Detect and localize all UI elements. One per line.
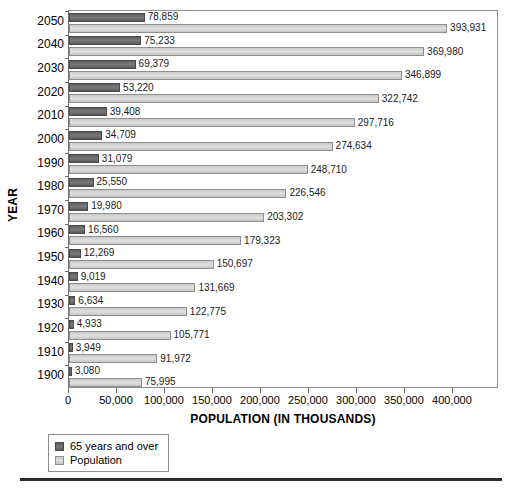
x-axis-tick-label: 150,000	[192, 394, 232, 406]
bar-group: 3,94991,972	[69, 342, 497, 366]
bottom-divider	[20, 478, 502, 481]
legend-item: 65 years and over	[55, 439, 158, 453]
x-axis-tick-label: 350,000	[384, 394, 424, 406]
y-axis-tick	[65, 318, 69, 319]
bar-value-population: 226,546	[289, 188, 325, 198]
y-axis-label-1920: 1920	[22, 322, 64, 334]
bar-group: 78,859393,931	[69, 11, 497, 35]
legend-swatch-light-icon	[55, 456, 64, 465]
bar-population	[69, 165, 308, 174]
bar-population	[69, 142, 333, 151]
bar-group: 6,634122,775	[69, 295, 497, 319]
bar-population	[69, 260, 214, 269]
x-axis-tick	[356, 388, 357, 393]
y-axis-tick	[65, 35, 69, 36]
x-axis-tick	[452, 388, 453, 393]
bar-value-population: 322,742	[382, 94, 418, 104]
y-axis-label-1990: 1990	[22, 157, 64, 169]
y-axis-label-1940: 1940	[22, 275, 64, 287]
bar-rows: 78,859393,93175,233369,98069,379346,8995…	[69, 11, 497, 387]
y-axis-tick	[65, 153, 69, 154]
bar-65-and-over	[69, 154, 99, 163]
bar-population	[69, 94, 379, 103]
bar-65-and-over	[69, 131, 102, 140]
y-axis-label-2010: 2010	[22, 109, 64, 121]
chart-legend: 65 years and overPopulation	[48, 434, 169, 472]
bar-value-population: 297,716	[358, 118, 394, 128]
x-axis-tick	[308, 388, 309, 393]
bar-65-and-over	[69, 249, 81, 258]
bar-group: 39,408297,716	[69, 106, 497, 130]
bar-value-population: 105,771	[174, 330, 210, 340]
bar-value-population: 274,634	[336, 141, 372, 151]
x-axis-tick-label: 0	[65, 394, 71, 406]
y-axis-tick	[65, 200, 69, 201]
y-axis-tick	[65, 106, 69, 107]
bar-value-65-and-over: 6,634	[78, 296, 103, 306]
y-axis-tick	[65, 11, 69, 12]
bar-value-65-and-over: 31,079	[102, 154, 133, 164]
bar-population	[69, 354, 157, 363]
bar-population	[69, 378, 142, 387]
y-axis-tick	[65, 82, 69, 83]
y-axis-label-2030: 2030	[22, 62, 64, 74]
bar-65-and-over	[69, 320, 74, 329]
y-axis-label-1960: 1960	[22, 227, 64, 239]
bar-population	[69, 118, 355, 127]
bar-value-65-and-over: 3,080	[75, 366, 100, 376]
bar-value-population: 203,302	[267, 212, 303, 222]
bar-value-65-and-over: 53,220	[123, 83, 154, 93]
bar-value-65-and-over: 39,408	[110, 107, 141, 117]
x-axis-tick	[68, 388, 69, 393]
bar-65-and-over	[69, 343, 73, 352]
bar-value-65-and-over: 12,269	[84, 248, 115, 258]
y-axis-label-2050: 2050	[22, 15, 64, 27]
bar-value-65-and-over: 19,980	[91, 201, 122, 211]
bar-65-and-over	[69, 225, 85, 234]
bar-65-and-over	[69, 107, 107, 116]
bar-group: 16,560179,323	[69, 224, 497, 248]
x-axis-tick-label: 50,000	[99, 394, 133, 406]
bar-65-and-over	[69, 36, 141, 45]
x-axis-tick	[260, 388, 261, 393]
bar-group: 9,019131,669	[69, 271, 497, 295]
y-axis-tick	[65, 342, 69, 343]
y-axis-label-2000: 2000	[22, 133, 64, 145]
x-axis-title: POPULATION (IN THOUSANDS)	[68, 412, 498, 426]
bar-65-and-over	[69, 178, 94, 187]
x-axis-tick	[404, 388, 405, 393]
x-axis-tick-label: 100,000	[144, 394, 184, 406]
bar-group: 34,709274,634	[69, 129, 497, 153]
bar-group: 25,550226,546	[69, 176, 497, 200]
bar-value-65-and-over: 25,550	[97, 177, 128, 187]
bar-value-population: 150,697	[217, 259, 253, 269]
population-bar-chart: YEAR 20502040203020202010200019901980197…	[0, 0, 522, 492]
bar-value-65-and-over: 16,560	[88, 225, 119, 235]
bar-population	[69, 236, 241, 245]
bar-group: 69,379346,899	[69, 58, 497, 82]
x-axis-tick-label: 400,000	[432, 394, 472, 406]
x-axis-tick-label: 200,000	[240, 394, 280, 406]
bar-population	[69, 213, 264, 222]
y-axis-tick	[65, 176, 69, 177]
y-axis-tick	[65, 247, 69, 248]
x-axis-tick	[116, 388, 117, 393]
bar-65-and-over	[69, 83, 120, 92]
bar-value-population: 122,775	[190, 307, 226, 317]
legend-swatch-dark-icon	[55, 442, 64, 451]
bar-65-and-over	[69, 202, 88, 211]
y-axis-label-2040: 2040	[22, 38, 64, 50]
legend-item: Population	[55, 453, 158, 467]
bar-value-65-and-over: 4,933	[77, 319, 102, 329]
bar-65-and-over	[69, 367, 72, 376]
bar-value-65-and-over: 78,859	[148, 12, 179, 22]
bar-value-population: 91,972	[160, 354, 191, 364]
y-axis-label-1910: 1910	[22, 346, 64, 358]
y-axis-labels: 2050204020302020201020001990198019701960…	[22, 10, 64, 388]
legend-label: Population	[70, 454, 122, 466]
bar-65-and-over	[69, 13, 145, 22]
bar-value-population: 248,710	[311, 165, 347, 175]
bar-population	[69, 24, 447, 33]
bar-value-population: 346,899	[405, 70, 441, 80]
bar-value-65-and-over: 3,949	[76, 343, 101, 353]
